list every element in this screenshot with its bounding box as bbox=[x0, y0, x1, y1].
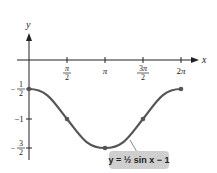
svg-text:−: − bbox=[11, 144, 16, 153]
svg-text:−1: −1 bbox=[14, 114, 24, 124]
svg-text:1: 1 bbox=[19, 80, 23, 89]
svg-text:2: 2 bbox=[19, 89, 23, 98]
y-axis-arrow-icon bbox=[26, 33, 32, 41]
x-tick-labels: π 2 π 3π 2 2π bbox=[63, 64, 186, 82]
chart-canvas: x y π 2 π 3π 2 2π − 1 2 −1 − 3 2 bbox=[0, 0, 217, 173]
equation-label: y = ½ sin x − 1 bbox=[109, 151, 169, 169]
svg-text:2π: 2π bbox=[176, 66, 186, 76]
svg-text:3: 3 bbox=[19, 139, 23, 148]
svg-text:3π: 3π bbox=[139, 64, 148, 73]
svg-text:π: π bbox=[65, 64, 70, 73]
svg-text:2: 2 bbox=[19, 148, 23, 157]
svg-text:−: − bbox=[11, 85, 16, 94]
x-axis-arrow-icon bbox=[191, 57, 199, 63]
svg-text:2: 2 bbox=[141, 73, 145, 82]
y-tick-labels: − 1 2 −1 − 3 2 bbox=[11, 80, 25, 157]
svg-text:2: 2 bbox=[65, 73, 69, 82]
curve-points bbox=[27, 87, 184, 151]
y-axis-label: y bbox=[25, 19, 31, 30]
svg-text:π: π bbox=[103, 66, 108, 76]
x-axis-label: x bbox=[201, 54, 207, 65]
function-curve bbox=[29, 89, 181, 148]
